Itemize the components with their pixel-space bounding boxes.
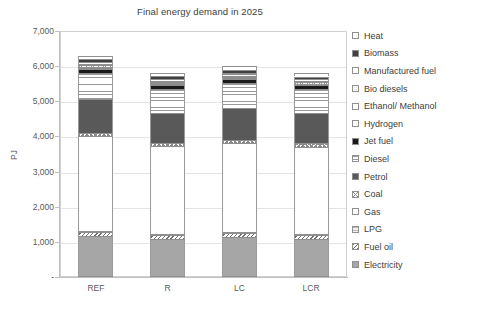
bar-segment-coal xyxy=(222,140,257,143)
legend-item-manufactured-fuel[interactable]: Manufactured fuel xyxy=(352,62,478,80)
legend-swatch-icon xyxy=(352,226,359,233)
legend-label: Coal xyxy=(364,189,383,199)
bar-segment-ethanol-methanol xyxy=(294,82,329,83)
legend-item-electricity[interactable]: Electricity xyxy=(352,256,478,274)
y-axis-tick-mark xyxy=(55,136,59,137)
legend-swatch-icon xyxy=(352,138,359,145)
bar-ref[interactable] xyxy=(78,31,113,277)
bar-segment-bio-diesels xyxy=(294,81,329,82)
legend-item-bio-diesels[interactable]: Bio diesels xyxy=(352,80,478,98)
bar-segment-heat xyxy=(294,73,329,76)
y-axis-tick-label: 2,000 xyxy=(6,203,54,211)
legend-item-coal[interactable]: Coal xyxy=(352,185,478,203)
y-axis-tick-label: - xyxy=(6,273,54,281)
bar-segment-hydrogen xyxy=(150,83,185,85)
x-axis-tick-label-r: R xyxy=(138,283,198,293)
bar-segment-bio-diesels xyxy=(78,64,113,65)
bar-segment-biomass xyxy=(294,77,329,80)
bar-segment-diesel xyxy=(222,83,257,108)
bar-segment-ethanol-methanol xyxy=(222,76,257,77)
bar-segment-electricity xyxy=(294,239,329,277)
bar-segment-petrol xyxy=(78,99,113,133)
legend-swatch-icon xyxy=(352,173,359,180)
bar-segment-biomass xyxy=(222,70,257,73)
bar-segment-petrol xyxy=(294,113,329,143)
legend-label: Heat xyxy=(364,31,383,41)
bar-segment-jet-fuel xyxy=(222,79,257,83)
bar-segment-fuel-oil xyxy=(78,232,113,235)
bar-r[interactable] xyxy=(150,31,185,277)
bar-segment-bio-diesels xyxy=(222,74,257,75)
y-axis-tick-mark xyxy=(55,207,59,208)
legend-label: Diesel xyxy=(364,154,389,164)
legend-label: LPG xyxy=(364,224,382,234)
bar-segment-fuel-oil xyxy=(294,235,329,239)
legend-item-gas[interactable]: Gas xyxy=(352,203,478,221)
bar-segment-lpg xyxy=(78,231,113,232)
bar-segment-petrol xyxy=(150,113,185,143)
legend-swatch-icon xyxy=(352,50,359,57)
legend-label: Gas xyxy=(364,207,381,217)
bar-segment-biomass xyxy=(150,76,185,79)
legend-item-petrol[interactable]: Petrol xyxy=(352,168,478,186)
y-axis-tick-label: 6,000 xyxy=(6,62,54,70)
bar-segment-gas xyxy=(150,146,185,234)
bar-segment-petrol xyxy=(222,108,257,140)
bar-segment-manufactured-fuel xyxy=(150,79,185,81)
legend-label: Biomass xyxy=(364,48,399,58)
bar-segment-electricity xyxy=(222,237,257,277)
legend-item-fuel-oil[interactable]: Fuel oil xyxy=(352,238,478,256)
bar-segment-biomass xyxy=(78,59,113,62)
x-axis-line xyxy=(59,277,348,278)
y-axis-tick-mark xyxy=(55,242,59,243)
legend-swatch-icon xyxy=(352,120,359,127)
chart-root: Final energy demand in 2025 -1,0002,0003… xyxy=(0,0,480,315)
y-axis-tick-mark xyxy=(55,66,59,67)
bar-segment-heat xyxy=(150,73,185,76)
bar-segment-coal xyxy=(150,143,185,146)
legend-label: Bio diesels xyxy=(364,84,408,94)
bar-segment-bio-diesels xyxy=(150,81,185,82)
y-axis-tick-mark xyxy=(55,277,59,278)
bar-segment-diesel xyxy=(78,73,113,99)
legend-swatch-icon xyxy=(352,155,359,162)
y-axis-tick-mark xyxy=(55,172,59,173)
legend-label: Manufactured fuel xyxy=(364,66,436,76)
legend-swatch-icon xyxy=(352,85,359,92)
legend-item-heat[interactable]: Heat xyxy=(352,27,478,45)
bar-segment-lpg xyxy=(222,232,257,233)
legend-label: Petrol xyxy=(364,172,388,182)
legend-item-lpg[interactable]: LPG xyxy=(352,221,478,239)
y-axis-title: PJ xyxy=(9,135,19,175)
bar-segment-electricity xyxy=(78,236,113,277)
legend-item-jet-fuel[interactable]: Jet fuel xyxy=(352,133,478,151)
bar-lc[interactable] xyxy=(222,31,257,277)
x-axis-tick-label-lc: LC xyxy=(209,283,269,293)
legend-label: Fuel oil xyxy=(364,242,393,252)
bar-segment-heat xyxy=(78,56,113,60)
bar-segment-coal xyxy=(78,133,113,137)
legend-item-biomass[interactable]: Biomass xyxy=(352,45,478,63)
bar-segment-diesel xyxy=(294,89,329,113)
legend-item-diesel[interactable]: Diesel xyxy=(352,150,478,168)
legend-item-ethanol-methanol[interactable]: Ethanol/ Methanol xyxy=(352,97,478,115)
bar-segment-hydrogen xyxy=(78,67,113,69)
x-axis-tick-label-lcr: LCR xyxy=(281,283,341,293)
y-axis-tick-label: 7,000 xyxy=(6,27,54,35)
bar-segment-heat xyxy=(222,66,257,69)
y-axis-line xyxy=(59,31,60,278)
y-axis-tick-label: 5,000 xyxy=(6,97,54,105)
bar-segment-fuel-oil xyxy=(222,233,257,237)
bar-segment-hydrogen xyxy=(222,77,257,79)
legend-item-hydrogen[interactable]: Hydrogen xyxy=(352,115,478,133)
chart-title: Final energy demand in 2025 xyxy=(0,6,400,17)
bar-segment-gas xyxy=(294,147,329,234)
legend-swatch-icon xyxy=(352,208,359,215)
bar-segment-ethanol-methanol xyxy=(150,82,185,83)
bar-lcr[interactable] xyxy=(294,31,329,277)
bar-segment-electricity xyxy=(150,239,185,277)
bar-segment-jet-fuel xyxy=(150,85,185,89)
legend-swatch-icon xyxy=(352,67,359,74)
bar-segment-jet-fuel xyxy=(78,69,113,73)
y-axis-tick-mark xyxy=(55,101,59,102)
